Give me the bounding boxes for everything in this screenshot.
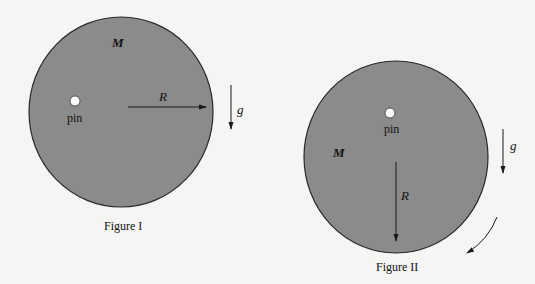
pin-icon-1 <box>70 96 80 106</box>
radius-label-2: R <box>400 188 409 203</box>
figure-1: M pin R g Figure I <box>29 17 244 233</box>
figure-2: pin M R g Figure II <box>304 61 517 274</box>
diagram-stage: M pin R g Figure I pin M R g Figure II <box>0 0 535 284</box>
gravity-label-1: g <box>237 102 244 117</box>
pin-label-2: pin <box>384 122 399 136</box>
pin-icon-2 <box>385 108 395 118</box>
mass-label-2: M <box>332 145 345 160</box>
rotation-arrow-icon <box>467 217 497 253</box>
mass-label-1: M <box>111 35 124 50</box>
caption-figure-1: Figure I <box>104 219 142 233</box>
gravity-label-2: g <box>510 138 517 153</box>
pin-label-1: pin <box>67 111 82 125</box>
radius-label-1: R <box>158 89 167 104</box>
caption-figure-2: Figure II <box>376 260 418 274</box>
physics-diagram: M pin R g Figure I pin M R g Figure II <box>0 0 535 284</box>
